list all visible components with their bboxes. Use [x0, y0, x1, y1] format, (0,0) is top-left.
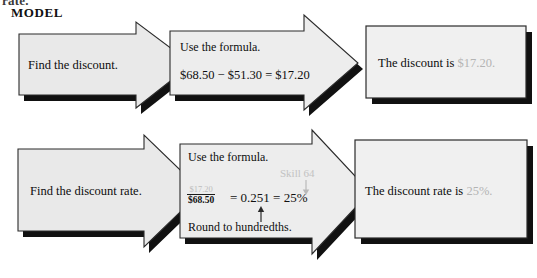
arrow-body [180, 130, 370, 254]
step-formula-discount-rate[interactable]: Use the formula. Skill 64 $17.20 $68.50 … [176, 130, 376, 252]
step-result-discount[interactable]: The discount is $17.20. [364, 24, 534, 104]
box-body [355, 140, 527, 238]
model-heading: MODEL [11, 5, 63, 21]
box-body [366, 26, 526, 98]
arrow-body [18, 135, 202, 247]
model-flowchart-page: rate. MODEL Find the discount. Use the f… [0, 0, 537, 278]
step-result-discount-rate[interactable]: The discount rate is 25%. [353, 138, 535, 244]
step-formula-discount[interactable]: Use the formula. $68.50 − $51.30 = $17.2… [166, 13, 366, 113]
